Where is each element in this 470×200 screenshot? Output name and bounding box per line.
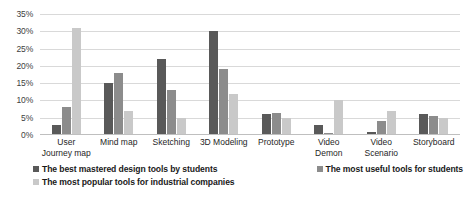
y-axis-tick-label: 15% [17, 78, 33, 88]
legend-label-0: The best mastered design tools by studen… [42, 164, 217, 174]
bar[interactable] [272, 113, 281, 135]
legend-label-1: The most useful tools for students [326, 164, 463, 174]
bar-groups [40, 14, 460, 135]
x-axis-line [40, 134, 460, 135]
bar[interactable] [104, 83, 113, 135]
x-axis-tick-label: Sketching [145, 137, 198, 161]
bar-group [145, 14, 198, 135]
bar[interactable] [114, 73, 123, 135]
x-axis-tick-label: Video Scenario [355, 137, 408, 161]
bar[interactable] [439, 118, 448, 135]
legend-row-1: The best mastered design tools by studen… [33, 164, 463, 174]
x-axis-tick-label: User Journey map [40, 137, 93, 161]
bar-group [303, 14, 356, 135]
legend-swatch-icon-1 [317, 166, 323, 172]
x-axis-tick-label: Storyboard [408, 137, 461, 161]
bar[interactable] [72, 28, 81, 135]
bar[interactable] [124, 111, 133, 135]
bar-group [198, 14, 251, 135]
bar-group [408, 14, 461, 135]
y-axis-tick-label: 35% [17, 9, 33, 19]
bar[interactable] [157, 59, 166, 135]
legend-item-1[interactable]: The most useful tools for students [317, 164, 463, 174]
bar[interactable] [334, 100, 343, 135]
bar[interactable] [62, 107, 71, 135]
plot-area [40, 14, 460, 135]
bar[interactable] [209, 31, 218, 135]
legend-row-2: The most popular tools for industrial co… [33, 177, 463, 187]
x-axis-category-labels: User Journey mapMind mapSketching3D Mode… [40, 137, 460, 161]
y-axis-tick-label: 5% [21, 113, 33, 123]
bar-group [40, 14, 93, 135]
bar[interactable] [229, 94, 238, 135]
chart-legend: The best mastered design tools by studen… [33, 164, 463, 190]
x-axis-tick-label: Prototype [250, 137, 303, 161]
bar[interactable] [419, 114, 428, 135]
bar[interactable] [167, 90, 176, 135]
bar[interactable] [262, 114, 271, 135]
legend-item-2[interactable]: The most popular tools for industrial co… [33, 177, 235, 187]
y-axis-tick-label: 10% [17, 95, 33, 105]
x-axis-tick-label: Mind map [93, 137, 146, 161]
bar[interactable] [387, 111, 396, 135]
bar[interactable] [219, 69, 228, 135]
bar[interactable] [177, 118, 186, 135]
bar-group [355, 14, 408, 135]
y-axis-tick-label: 0% [21, 130, 33, 140]
y-axis-labels: 0%5%10%15%20%25%30%35% [0, 0, 36, 135]
legend-swatch-icon-2 [33, 179, 39, 185]
y-axis-tick-label: 20% [17, 61, 33, 71]
bar[interactable] [429, 116, 438, 135]
legend-label-2: The most popular tools for industrial co… [42, 177, 235, 187]
y-axis-tick-label: 25% [17, 44, 33, 54]
bar-chart: 0%5%10%15%20%25%30%35% User Journey mapM… [0, 0, 470, 200]
y-axis-tick-label: 30% [17, 26, 33, 36]
legend-swatch-icon-0 [33, 166, 39, 172]
bar-group [250, 14, 303, 135]
legend-item-0[interactable]: The best mastered design tools by studen… [33, 164, 317, 174]
bar[interactable] [282, 118, 291, 135]
bar-group [93, 14, 146, 135]
x-axis-tick-label: 3D Modeling [198, 137, 251, 161]
x-axis-tick-label: Video Demon [303, 137, 356, 161]
bar[interactable] [377, 121, 386, 135]
